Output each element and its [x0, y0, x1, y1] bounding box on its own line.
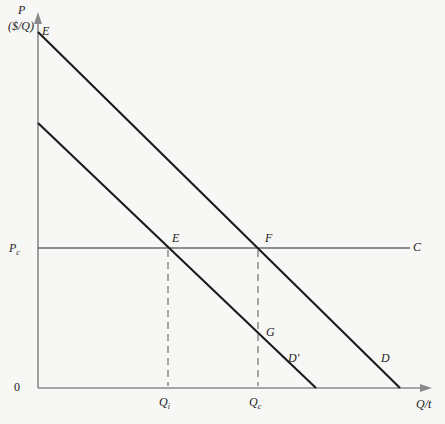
- x-tick-label-qc: Qc: [249, 396, 261, 411]
- point-label-e-top: E: [42, 25, 49, 37]
- demand-curve-d-prime: [38, 123, 316, 388]
- curve-label-d-prime: D': [288, 352, 299, 364]
- y-tick-label-pc: Pc: [9, 242, 20, 257]
- x-tick-label-qc-text: Q: [249, 395, 258, 409]
- x-tick-label-qi-sub: i: [168, 402, 170, 411]
- curve-label-c: C: [413, 241, 421, 253]
- curve-label-d: D: [381, 352, 390, 364]
- x-axis-arrowhead-icon: [420, 384, 432, 392]
- y-axis-label: P: [18, 4, 25, 16]
- y-axis-unit-label: ($/Q): [8, 20, 34, 32]
- point-label-f: F: [265, 232, 272, 244]
- x-axis-label: Q/t: [416, 398, 431, 410]
- y-axis-arrowhead-icon: [34, 12, 42, 24]
- point-label-e-mid: E: [172, 232, 179, 244]
- origin-label: 0: [14, 381, 20, 393]
- diagram-canvas: [0, 0, 445, 424]
- point-label-g: G: [266, 326, 275, 338]
- demand-curve-d: [38, 32, 400, 388]
- x-tick-label-qc-sub: c: [258, 402, 262, 411]
- x-tick-label-qi: Qi: [159, 396, 170, 411]
- x-tick-label-qi-text: Q: [159, 395, 168, 409]
- economics-demand-diagram: P ($/Q) Q/t 0 Pc Qi Qc E E F G C D' D: [0, 0, 445, 424]
- y-tick-label-pc-sub: c: [16, 248, 20, 257]
